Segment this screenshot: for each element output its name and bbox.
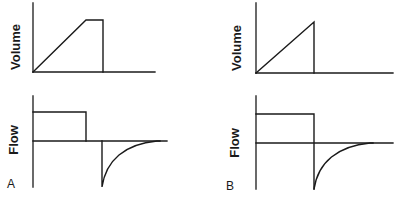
panel-a-volume-trace — [33, 20, 103, 72]
ventilator-waveform-diagram: Volume Flow A Volume Flow B — [0, 0, 407, 200]
panel-b-flow-graph: Flow — [227, 96, 393, 189]
panel-b-volume-label: Volume — [229, 25, 244, 71]
panel-b-flow-label: Flow — [227, 127, 242, 157]
panel-a: Volume Flow A — [6, 3, 167, 191]
panel-a-flow-label: Flow — [6, 124, 21, 154]
panel-b-volume-trace — [256, 22, 314, 73]
panel-a-letter: A — [7, 177, 15, 191]
panel-a-inspiratory-flow-trace — [33, 112, 86, 141]
panel-b-volume-graph: Volume — [229, 3, 393, 73]
panel-b: Volume Flow B — [226, 3, 393, 193]
panel-b-letter: B — [226, 179, 234, 193]
panel-a-expiratory-flow-trace — [102, 141, 160, 187]
panel-a-volume-graph: Volume — [8, 3, 155, 72]
panel-b-inspiratory-flow-trace — [256, 114, 314, 189]
panel-b-expiratory-flow-trace — [314, 143, 373, 189]
panel-a-volume-label: Volume — [8, 24, 23, 70]
panel-a-flow-graph: Flow — [6, 96, 167, 187]
